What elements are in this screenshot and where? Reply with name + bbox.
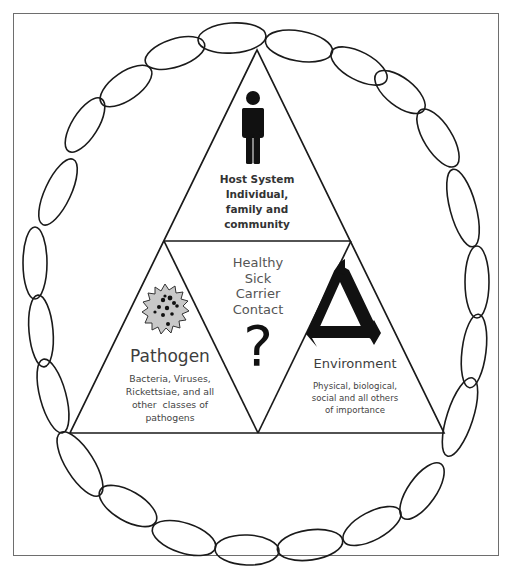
pathogen-desc-line-4: pathogens bbox=[100, 411, 240, 424]
pathogen-desc-line-1: Bacteria, Viruses, bbox=[100, 372, 240, 385]
pathogen-description: Bacteria, Viruses, Rickettsiae, and all … bbox=[100, 372, 240, 424]
pathogen-desc-line-2: Rickettsiae, and all bbox=[100, 385, 240, 398]
environment-desc-line-1: Physical, biological, bbox=[298, 380, 412, 392]
environment-title: Environment bbox=[300, 356, 410, 372]
germ-icon bbox=[142, 284, 189, 334]
question-mark-icon: ? bbox=[228, 318, 288, 374]
status-sick: Sick bbox=[208, 271, 308, 287]
pathogen-title: Pathogen bbox=[110, 346, 230, 367]
status-healthy: Healthy bbox=[208, 255, 308, 271]
person-icon bbox=[242, 91, 264, 164]
cycle-triangle-icon bbox=[306, 259, 381, 347]
environment-desc-line-2: social and all others bbox=[298, 392, 412, 404]
environment-desc-line-3: of importance bbox=[298, 404, 412, 416]
host-line-2: Individual, bbox=[207, 187, 307, 202]
host-line-4: community bbox=[207, 217, 307, 232]
status-carrier: Carrier bbox=[208, 286, 308, 302]
host-line-1: Host System bbox=[207, 172, 307, 187]
environment-description: Physical, biological, social and all oth… bbox=[298, 380, 412, 416]
pathogen-desc-line-3: other classes of bbox=[100, 398, 240, 411]
host-label: Host System Individual, family and commu… bbox=[207, 172, 307, 232]
status-list: Healthy Sick Carrier Contact bbox=[208, 255, 308, 317]
host-line-3: family and bbox=[207, 202, 307, 217]
